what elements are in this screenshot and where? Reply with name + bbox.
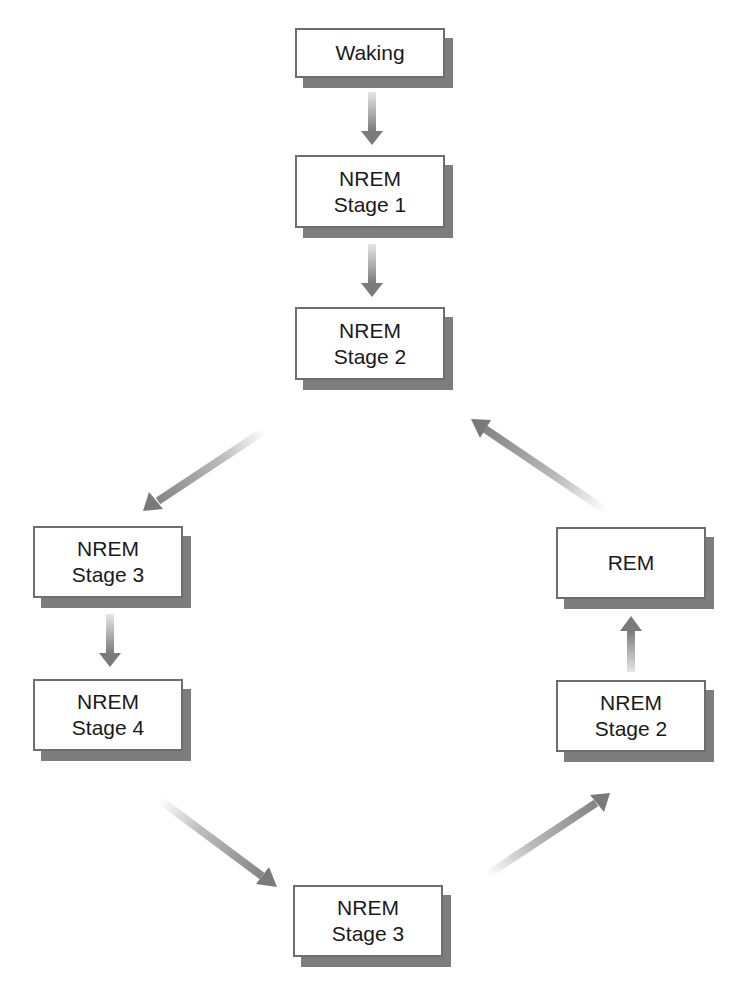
- node-label-line1: NREM: [77, 536, 139, 562]
- node-label-line1: REM: [608, 550, 655, 576]
- arrows-layer: [0, 0, 741, 997]
- arrow-rem-to-nrem2: [471, 419, 605, 510]
- node-box: NREM Stage 2: [295, 307, 445, 380]
- node-nrem-stage-1: NREM Stage 1: [295, 155, 445, 228]
- arrow-nrem4-to-nrem3-bottom: [160, 800, 277, 887]
- node-box: NREM Stage 1: [295, 155, 445, 228]
- node-rem: REM: [556, 527, 706, 599]
- node-nrem-stage-3-bottom: NREM Stage 3: [293, 885, 443, 957]
- node-box: NREM Stage 3: [293, 885, 443, 957]
- node-box: Waking: [295, 28, 445, 78]
- node-label-line1: NREM: [337, 895, 399, 921]
- node-label-line2: Stage 4: [72, 715, 144, 741]
- arrow-nrem2-to-nrem3: [143, 430, 265, 511]
- node-waking: Waking: [295, 28, 445, 78]
- node-nrem-stage-2-right: NREM Stage 2: [556, 680, 706, 752]
- node-label-line2: Stage 3: [72, 562, 144, 588]
- node-nrem-stage-3-left: NREM Stage 3: [33, 526, 183, 598]
- node-nrem-stage-4: NREM Stage 4: [33, 679, 183, 751]
- node-label-line1: NREM: [77, 689, 139, 715]
- node-box: NREM Stage 4: [33, 679, 183, 751]
- node-label-line1: NREM: [339, 166, 401, 192]
- node-label-line1: Waking: [335, 40, 404, 66]
- node-box: NREM Stage 2: [556, 680, 706, 752]
- arrow-nrem2-to-rem: [620, 616, 642, 672]
- node-box: NREM Stage 3: [33, 526, 183, 598]
- node-label-line2: Stage 3: [332, 921, 404, 947]
- node-label-line2: Stage 1: [334, 192, 406, 218]
- arrow-nrem3-to-nrem4: [99, 614, 121, 667]
- node-label-line1: NREM: [339, 318, 401, 344]
- node-box: REM: [556, 527, 706, 599]
- arrow-nrem1-to-nrem2: [361, 244, 383, 297]
- node-nrem-stage-2-top: NREM Stage 2: [295, 307, 445, 380]
- node-label-line1: NREM: [600, 690, 662, 716]
- node-label-line2: Stage 2: [595, 716, 667, 742]
- arrow-waking-to-nrem1: [361, 92, 383, 145]
- arrow-nrem3-to-nrem2-right: [487, 793, 610, 875]
- node-label-line2: Stage 2: [334, 344, 406, 370]
